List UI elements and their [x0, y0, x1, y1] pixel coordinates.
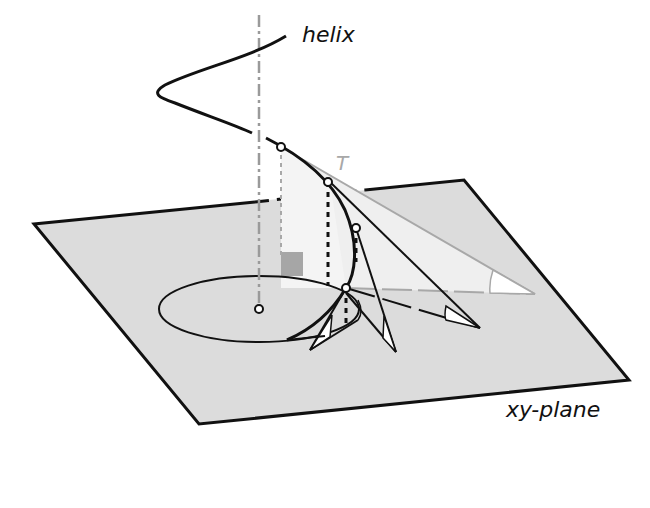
right-angle-marker [281, 252, 303, 276]
helix-curve-upper [158, 36, 286, 133]
axis-origin-point [255, 305, 263, 313]
tangent-label: T [336, 151, 350, 175]
helix-point-3 [352, 224, 360, 232]
helix-label: helix [302, 22, 356, 47]
plane-label: xy-plane [505, 397, 600, 422]
helix-point-4 [342, 284, 350, 292]
helix-point-1 [277, 143, 285, 151]
helix-diagram: helix T xy-plane [0, 0, 650, 508]
helix-point-2 [324, 178, 332, 186]
